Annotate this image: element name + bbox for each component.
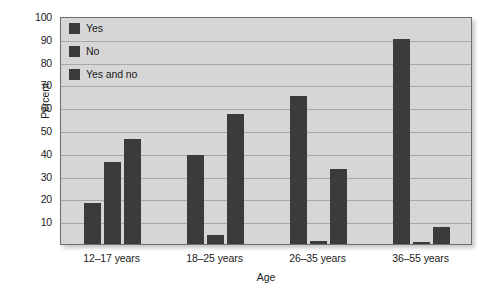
y-axis-tick-label: 100 [35,11,52,23]
bar [393,39,410,244]
bar [227,114,244,244]
bar [413,242,430,244]
x-axis-tick-labels: 12–17 years18–25 years26–35 years36–55 y… [60,252,472,268]
legend-label: Yes and no [86,69,137,80]
bar [433,227,450,244]
y-axis-tick-labels: 100908070605040302010 [0,17,56,245]
y-axis-tick-label: 40 [41,148,52,160]
bar [290,96,307,244]
y-axis-tick-label: 80 [41,57,52,69]
x-axis-tick-label: 26–35 years [289,252,346,264]
x-axis-tick-label: 36–55 years [392,252,449,264]
y-axis-tick-label: 60 [41,102,52,114]
x-axis-title: Age [60,271,472,283]
bar [330,169,347,244]
bar [104,162,121,244]
bar-group [370,18,473,244]
legend-swatch-icon [69,69,80,80]
x-axis-tick-label: 12–17 years [83,252,140,264]
y-axis-tick-label: 30 [41,171,52,183]
bar [310,241,327,244]
legend-swatch-icon [69,46,80,57]
bar-chart-figure: Percent 100908070605040302010 YesNoYes a… [0,0,502,294]
plot-area: YesNoYes and no [60,17,472,245]
legend-swatch-icon [69,23,80,34]
legend-label: No [86,46,99,57]
y-axis-tick-label: 20 [41,193,52,205]
bar [84,203,101,244]
legend-item: Yes [69,22,137,35]
bar [124,139,141,244]
legend-label: Yes [86,23,103,34]
legend-item: No [69,45,137,58]
y-axis-tick-label: 50 [41,125,52,137]
bar-group [267,18,370,244]
chart-legend: YesNoYes and no [69,22,137,81]
bar [187,155,204,244]
y-axis-tick-label: 10 [41,216,52,228]
bar-group [164,18,267,244]
bar [207,235,224,244]
y-axis-tick-label: 90 [41,34,52,46]
y-axis-tick-label: 70 [41,79,52,91]
x-axis-tick-label: 18–25 years [186,252,243,264]
legend-item: Yes and no [69,68,137,81]
